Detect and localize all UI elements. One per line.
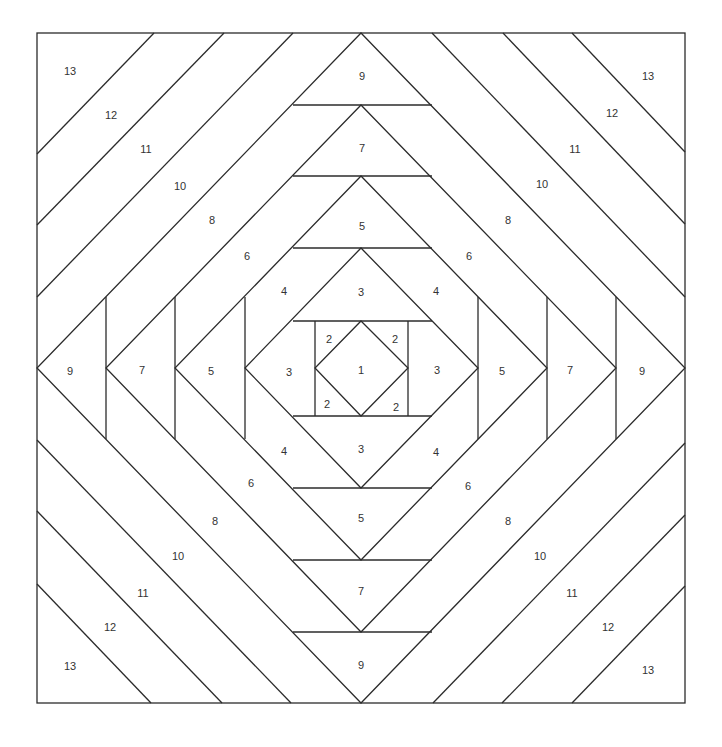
diagonal-seam (37, 33, 154, 154)
diagonal-seam (572, 586, 685, 703)
piece-label: 9 (359, 70, 365, 82)
piece-label: 11 (566, 587, 577, 599)
piece-label: 13 (642, 664, 654, 676)
piece-label: 3 (434, 364, 440, 376)
piece-label: 11 (569, 143, 580, 155)
piece-label: 10 (534, 550, 546, 562)
piece-label: 4 (433, 446, 439, 458)
piece-label: 6 (244, 250, 250, 262)
piece-label: 5 (358, 512, 364, 524)
piece-label: 4 (281, 285, 287, 297)
piece-label: 7 (567, 364, 573, 376)
piece-label: 5 (208, 365, 214, 377)
piece-label: 7 (358, 585, 364, 597)
quilt-block-diagram: 1313131312121212111111111010101099998888… (0, 0, 722, 747)
piece-label: 3 (286, 366, 292, 378)
piece-label: 3 (358, 286, 364, 298)
diagonal-seam (37, 511, 222, 703)
piece-label: 10 (536, 178, 548, 190)
piece-label: 12 (104, 621, 116, 633)
piece-label: 1 (358, 364, 364, 376)
piece-label: 8 (505, 515, 511, 527)
piece-label: 6 (466, 250, 472, 262)
piece-label: 12 (105, 109, 117, 121)
piece-label: 5 (499, 365, 505, 377)
piece-label: 8 (209, 214, 215, 226)
piece-label: 2 (326, 333, 332, 345)
piece-label: 3 (358, 443, 364, 455)
piece-label: 5 (359, 220, 365, 232)
piece-label: 2 (324, 398, 330, 410)
piece-label: 4 (433, 285, 439, 297)
piece-label: 10 (172, 550, 184, 562)
piece-label: 12 (606, 107, 618, 119)
piece-label: 8 (505, 214, 511, 226)
diagonal-seam (503, 33, 685, 224)
diagonal-seam (572, 33, 685, 152)
piece-label: 8 (212, 515, 218, 527)
piece-label: 11 (137, 587, 148, 599)
piece-label: 6 (465, 480, 471, 492)
diagonal-seam (37, 33, 224, 225)
piece-label: 7 (139, 364, 145, 376)
piece-label: 13 (64, 65, 76, 77)
diagonal-seam (502, 515, 685, 703)
piece-number-labels: 1313131312121212111111111010101099998888… (64, 65, 654, 676)
piece-label: 7 (359, 142, 365, 154)
piece-label: 6 (248, 477, 254, 489)
piece-label: 2 (392, 333, 398, 345)
piece-label: 13 (642, 70, 654, 82)
diagonal-seam (37, 584, 151, 703)
piece-label: 2 (393, 401, 399, 413)
piece-label: 13 (64, 660, 76, 672)
piece-label: 4 (281, 445, 287, 457)
piece-label: 11 (140, 143, 151, 155)
piece-label: 12 (602, 621, 614, 633)
piece-label: 9 (358, 659, 364, 671)
piece-label: 9 (67, 365, 73, 377)
piece-label: 9 (639, 365, 645, 377)
piece-label: 10 (174, 180, 186, 192)
